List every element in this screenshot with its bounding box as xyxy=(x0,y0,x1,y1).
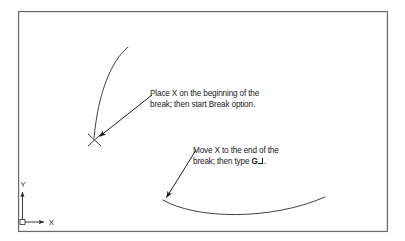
ucs-x-label: X xyxy=(49,218,54,227)
annotation-place-x-line2: break; then start Break option. xyxy=(150,99,259,110)
annotation-move-x-command-key: G xyxy=(251,157,257,166)
page-background xyxy=(0,0,405,241)
enter-key-icon xyxy=(258,157,263,164)
cad-diagram-canvas: Y X xyxy=(0,0,405,241)
annotation-place-x-line1: Place X on the beginning of the xyxy=(150,88,259,99)
annotation-move-x-line1: Move X to the end of the xyxy=(193,145,279,156)
annotation-move-x: Move X to the end of the break; then typ… xyxy=(193,145,279,168)
annotation-place-x: Place X on the beginning of the break; t… xyxy=(150,88,259,111)
ucs-origin-square xyxy=(20,220,25,225)
annotation-move-x-line2-prefix: break; then type xyxy=(193,157,251,166)
annotation-move-x-line2-suffix: . xyxy=(264,157,266,166)
annotation-move-x-line2: break; then type G. xyxy=(193,156,279,167)
ucs-y-label: Y xyxy=(21,180,26,189)
